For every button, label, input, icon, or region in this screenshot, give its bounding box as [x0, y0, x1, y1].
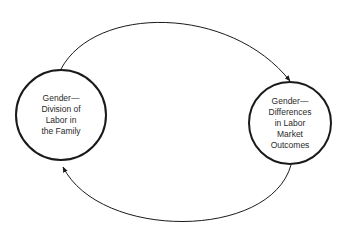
node-label-line: Division of	[41, 104, 80, 115]
arrow-right-to-left	[63, 165, 291, 222]
node-label-line: Outcomes	[271, 140, 310, 151]
node-label-gender-differences-labor-market: Gender— Differences in Labor Market Outc…	[249, 82, 331, 164]
node-label-line: Gender—	[272, 96, 309, 107]
node-label-line: Market	[277, 129, 303, 140]
node-label-line: the Family	[41, 126, 80, 137]
node-label-line: Differences	[269, 107, 312, 118]
node-label-line: Gender—	[43, 93, 80, 104]
node-label-gender-division-of-labor: Gender— Division of Labor in the Family	[16, 70, 106, 160]
node-label-line: in Labor	[275, 118, 306, 129]
node-label-line: Labor in	[46, 115, 77, 126]
